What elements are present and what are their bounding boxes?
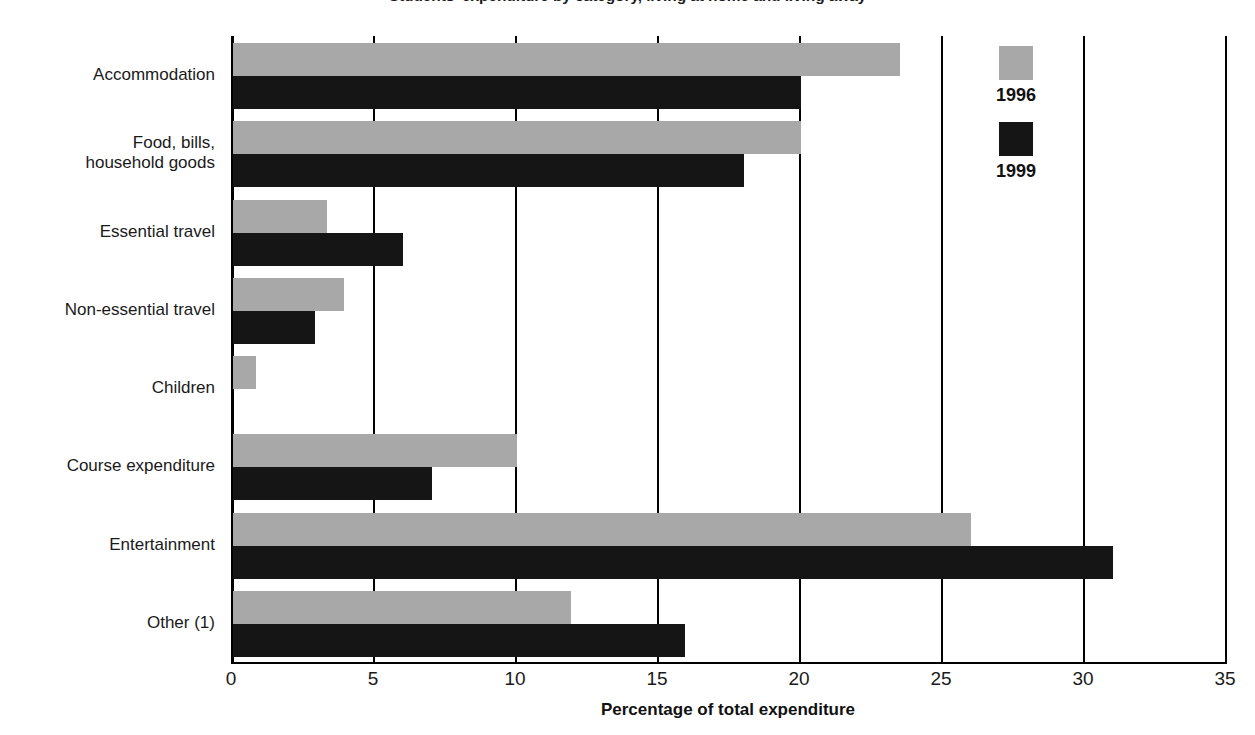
x-tick-label-10: 10 — [485, 668, 545, 690]
x-tick-label-30: 30 — [1053, 668, 1113, 690]
bar-row: Non-essential travel — [0, 271, 1255, 349]
bar-row: Other (1) — [0, 584, 1255, 662]
category-label-line: Entertainment — [0, 535, 215, 555]
category-label: Other (1) — [0, 613, 215, 633]
x-tick-label-15: 15 — [627, 668, 687, 690]
category-label: Food, bills,household goods — [0, 133, 215, 173]
bar-row: Children — [0, 349, 1255, 427]
bar-1996-1 — [233, 43, 900, 76]
legend-item-1999[interactable]: 1999 — [996, 122, 1106, 182]
legend: 1996 1999 — [996, 46, 1106, 198]
bar-1999-6 — [233, 467, 432, 500]
category-label-line: Children — [0, 378, 215, 398]
legend-item-1996[interactable]: 1996 — [996, 46, 1106, 106]
x-tick-label-35: 35 — [1195, 668, 1255, 690]
category-label-line: Course expenditure — [0, 456, 215, 476]
category-label: Essential travel — [0, 222, 215, 242]
bar-1999-7 — [233, 546, 1113, 579]
legend-swatch-1999 — [999, 122, 1033, 156]
bar-1996-8 — [233, 591, 571, 624]
x-axis-title: Percentage of total expenditure — [231, 700, 1225, 720]
bar-1999-2 — [233, 154, 744, 187]
legend-label-1996: 1996 — [996, 84, 1106, 106]
bar-1999-1 — [233, 76, 801, 109]
x-tick-label-20: 20 — [769, 668, 829, 690]
legend-swatch-1996 — [999, 46, 1033, 80]
x-tick-label-5: 5 — [343, 668, 403, 690]
category-label-line: Essential travel — [0, 222, 215, 242]
category-label-line: household goods — [0, 153, 215, 173]
bar-1996-3 — [233, 200, 327, 233]
category-label-line: Food, bills, — [0, 133, 215, 153]
bar-1996-6 — [233, 434, 517, 467]
bar-1999-4 — [233, 311, 315, 344]
category-label-line: Other (1) — [0, 613, 215, 633]
category-label: Entertainment — [0, 535, 215, 555]
bar-row: Entertainment — [0, 506, 1255, 584]
bar-row: Course expenditure — [0, 427, 1255, 505]
x-tick-label-25: 25 — [911, 668, 971, 690]
x-tick-label-0: 0 — [201, 668, 261, 690]
category-label-line: Accommodation — [0, 65, 215, 85]
category-label: Children — [0, 378, 215, 398]
bar-1999-8 — [233, 624, 685, 657]
legend-label-1999: 1999 — [996, 160, 1106, 182]
category-label: Non-essential travel — [0, 300, 215, 320]
bar-1996-5 — [233, 356, 256, 389]
bar-row: Essential travel — [0, 193, 1255, 271]
category-label-line: Non-essential travel — [0, 300, 215, 320]
bar-1996-2 — [233, 121, 801, 154]
bar-1996-4 — [233, 278, 344, 311]
category-label: Course expenditure — [0, 456, 215, 476]
chart-root: Students' expenditure by category, livin… — [0, 0, 1255, 735]
bar-1999-3 — [233, 233, 403, 266]
bar-1996-7 — [233, 513, 971, 546]
category-label: Accommodation — [0, 65, 215, 85]
